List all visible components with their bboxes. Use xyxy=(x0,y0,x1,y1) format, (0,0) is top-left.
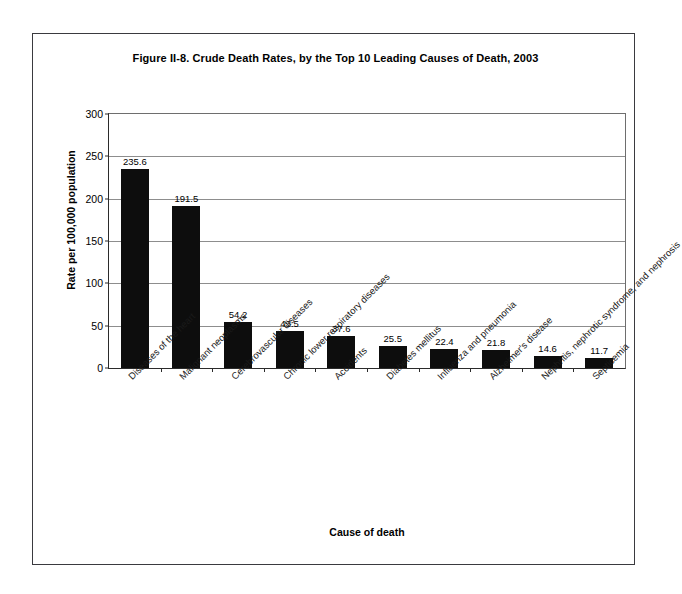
chart-title: Figure II-8. Crude Death Rates, by the T… xyxy=(73,52,598,64)
x-tick-mark xyxy=(470,368,471,372)
x-tick-mark xyxy=(315,368,316,372)
y-tick-label: 0 xyxy=(97,362,103,374)
x-tick-mark xyxy=(419,368,420,372)
y-tick-label: 300 xyxy=(85,108,103,120)
x-tick-mark xyxy=(212,368,213,372)
y-tick-label: 250 xyxy=(85,150,103,162)
y-axis-title: Rate per 100,000 population xyxy=(65,120,77,320)
bar-value-label: 14.6 xyxy=(538,343,557,354)
bar-value-label: 191.5 xyxy=(175,193,199,204)
bar-value-label: 21.8 xyxy=(487,337,506,348)
x-tick-mark xyxy=(573,368,574,372)
bar-value-label: 11.7 xyxy=(590,345,608,356)
y-tick-label: 100 xyxy=(85,277,103,289)
bar[interactable]: 235.6 xyxy=(121,169,149,368)
y-tick-mark xyxy=(105,198,109,199)
figure-frame: Figure II-8. Crude Death Rates, by the T… xyxy=(32,33,635,565)
bar-value-label: 22.4 xyxy=(435,336,454,347)
bar-value-label: 235.6 xyxy=(123,156,147,167)
y-tick-label: 150 xyxy=(85,235,103,247)
bar[interactable]: 191.5 xyxy=(172,206,200,368)
y-tick-mark xyxy=(105,156,109,157)
x-tick-mark xyxy=(264,368,265,372)
gridline xyxy=(109,156,625,157)
plot-area: 050100150200250300235.6191.554.243.537.6… xyxy=(108,113,626,369)
x-axis-title: Cause of death xyxy=(108,526,626,538)
x-tick-mark xyxy=(367,368,368,372)
y-tick-mark xyxy=(105,241,109,242)
y-tick-mark xyxy=(105,368,109,369)
y-tick-mark xyxy=(105,325,109,326)
y-tick-mark xyxy=(105,283,109,284)
y-tick-mark xyxy=(105,114,109,115)
y-tick-label: 200 xyxy=(85,193,103,205)
x-tick-mark xyxy=(522,368,523,372)
y-tick-label: 50 xyxy=(91,320,103,332)
bar-value-label: 25.5 xyxy=(384,333,403,344)
x-tick-mark xyxy=(161,368,162,372)
